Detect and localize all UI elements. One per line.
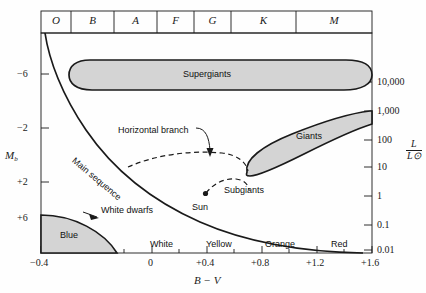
right-axis-tick-10000: 10,000 <box>377 77 405 87</box>
left-axis-tick-plus6: +6 <box>17 213 28 223</box>
spectral-class-K: K <box>231 15 296 26</box>
bottom-axis-tick-minus0-4: −0.4 <box>30 258 48 268</box>
region-label-giants: Giants <box>296 132 322 141</box>
right-axis-tick-100: 100 <box>377 135 392 145</box>
right-axis-title-denominator: L⊙ <box>406 151 422 162</box>
color-band-yellow: Yellow <box>206 240 232 249</box>
left-axis-tick-minus6: −6 <box>17 69 28 79</box>
left-axis-tick-minus2: −2 <box>17 123 28 133</box>
bottom-axis-tick-plus1-2: +1.2 <box>306 258 324 268</box>
bottom-axis-tick-plus0-4: +0.4 <box>196 258 214 268</box>
horizontal-branch-leader <box>196 128 210 150</box>
spectral-class-M: M <box>296 15 372 26</box>
color-band-red: Red <box>331 240 348 249</box>
right-axis-tick-1: 1 <box>377 191 382 201</box>
annotation-sun: Sun <box>192 203 208 212</box>
color-band-orange: Orange <box>265 240 295 249</box>
giants-region <box>246 111 372 176</box>
right-axis-tick-0-01: 0.01 <box>377 245 395 255</box>
spectral-class-A: A <box>114 15 157 26</box>
hr-diagram-canvas <box>0 0 426 293</box>
left-axis-tick-plus2: +2 <box>17 177 28 187</box>
color-band-blue: Blue <box>60 231 78 240</box>
right-axis-tick-10: 10 <box>377 162 387 172</box>
spectral-class-O: O <box>41 15 71 26</box>
region-label-white-dwarfs: White dwarfs <box>101 206 153 215</box>
bottom-axis-tick-plus0-8: +0.8 <box>251 258 269 268</box>
white-dwarfs-region <box>41 215 117 253</box>
annotation-horizontal-branch: Horizontal branch <box>118 126 189 135</box>
right-axis-ticks <box>364 82 372 250</box>
spectral-class-F: F <box>157 15 194 26</box>
region-label-supergiants: Supergiants <box>183 70 231 79</box>
sun-marker <box>203 191 208 196</box>
horizontal-branch-curve <box>128 152 248 171</box>
color-band-white: White <box>150 240 173 249</box>
bottom-axis-title: B − V <box>194 275 220 286</box>
left-axis-ticks <box>41 74 49 218</box>
bottom-axis-tick-plus1-6: +1.6 <box>361 258 379 268</box>
white-dwarfs-arrowhead <box>89 214 99 220</box>
hr-diagram-figure: O B A F G K M −6 −2 +2 +6 Mb 10,000 1,00… <box>0 0 426 293</box>
annotation-subgiants: Subgiants <box>224 186 264 195</box>
right-axis-tick-0-1: 0.1 <box>377 220 390 230</box>
left-axis-title: Mb <box>5 150 18 163</box>
spectral-class-B: B <box>71 15 114 26</box>
left-axis-title-main: M <box>5 149 14 161</box>
right-axis-title-numerator: L <box>406 139 422 151</box>
spectral-class-G: G <box>194 15 231 26</box>
right-axis-tick-1000: 1,000 <box>377 106 400 116</box>
left-axis-title-subscript: b <box>14 155 18 163</box>
right-axis-title: L L⊙ <box>406 139 422 162</box>
bottom-axis-tick-0: 0 <box>148 258 153 268</box>
